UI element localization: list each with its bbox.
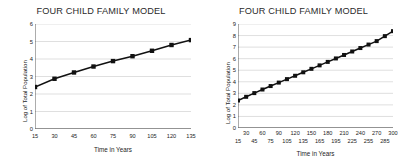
x-tick-label: 90	[276, 130, 282, 136]
x-tick-label: 45	[251, 138, 257, 144]
x-tick-label: 15	[235, 138, 241, 144]
x-tick-label: 165	[315, 138, 324, 144]
plot-area-left	[35, 24, 191, 129]
x-tick-label: 285	[380, 138, 389, 144]
y-tick-label: 5	[227, 67, 236, 73]
x-tick-label: 60	[259, 130, 265, 136]
x-tick-label: 120	[290, 130, 299, 136]
x-tick-label: 120	[167, 133, 176, 139]
y-tick-label: 9	[227, 21, 236, 27]
y-tick-label: 4	[227, 79, 236, 85]
x-tick-label: 135	[299, 138, 308, 144]
x-tick-labels-left: 153045607590105120135	[35, 133, 191, 143]
x-tick-label: 15	[32, 133, 38, 139]
x-tick-label: 75	[110, 133, 116, 139]
y-tick-label: 3	[227, 90, 236, 96]
y-tick-label: 3	[24, 74, 33, 80]
x-tick-label: 150	[307, 130, 316, 136]
x-tick-label: 210	[339, 130, 348, 136]
y-tick-label: 5	[24, 39, 33, 45]
chart-title-left: FOUR CHILD FAMILY MODEL	[0, 6, 202, 16]
y-tick-label: 0	[227, 125, 236, 131]
line-chart-svg-left	[35, 24, 191, 129]
two-chart-figure: FOUR CHILD FAMILY MODEL Log of Total Pop…	[0, 0, 405, 164]
x-tick-label: 135	[186, 133, 195, 139]
x-tick-label: 30	[51, 133, 57, 139]
x-tick-label: 195	[331, 138, 340, 144]
x-tick-label: 105	[282, 138, 291, 144]
y-tick-label: 1	[24, 109, 33, 115]
y-tick-label: 2	[24, 91, 33, 97]
y-tick-label: 4	[24, 56, 33, 62]
y-tick-label: 6	[24, 21, 33, 27]
x-tick-label: 255	[364, 138, 373, 144]
x-tick-label: 300	[388, 130, 397, 136]
x-tick-label: 270	[372, 130, 381, 136]
x-tick-label: 105	[147, 133, 156, 139]
x-tick-labels-right-bottom: 154575105135165195225255285	[238, 138, 393, 147]
x-axis-title-left: Time in Years	[35, 146, 191, 153]
plot-area-right	[238, 24, 393, 128]
line-chart-svg-right	[238, 24, 393, 128]
x-tick-label: 60	[90, 133, 96, 139]
x-tick-label: 180	[323, 130, 332, 136]
y-tick-label: 7	[227, 44, 236, 50]
chart-panel-left: FOUR CHILD FAMILY MODEL Log of Total Pop…	[0, 0, 202, 164]
x-tick-label: 90	[129, 133, 135, 139]
x-axis-title-right: Time in Years	[238, 150, 393, 157]
y-tick-label: 2	[227, 102, 236, 108]
chart-panel-right: FOUR CHILD FAMILY MODEL Log of Total Pop…	[202, 0, 405, 164]
y-tick-label: 0	[24, 126, 33, 132]
x-tick-label: 240	[356, 130, 365, 136]
chart-title-right: FOUR CHILD FAMILY MODEL	[202, 6, 405, 16]
y-tick-label: 1	[227, 113, 236, 119]
y-tick-label: 8	[227, 33, 236, 39]
x-tick-label: 225	[348, 138, 357, 144]
x-tick-label: 75	[268, 138, 274, 144]
x-tick-label: 30	[243, 130, 249, 136]
x-tick-label: 45	[71, 133, 77, 139]
y-tick-label: 6	[227, 56, 236, 62]
